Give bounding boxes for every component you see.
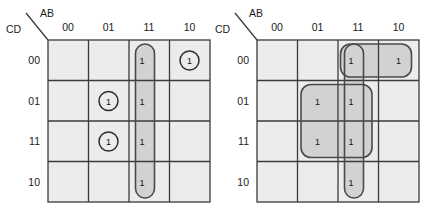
column-header-2: 11 — [353, 21, 364, 33]
column-header-1: 01 — [103, 21, 115, 33]
column-header-2: 11 — [144, 21, 155, 33]
column-header-0: 00 — [271, 21, 283, 33]
row-header-0: 00 — [237, 54, 249, 66]
cell-value-r00-c10: 1 — [187, 56, 192, 66]
row-header-2: 11 — [238, 135, 249, 147]
cell-value-r00-c10: 1 — [396, 56, 401, 66]
kmap-figure: AB CD 00 01 11 10 00 01 11 10 1 1 1 1 1 … — [0, 0, 435, 217]
karnaugh-map-right: AB CD 00 01 11 10 00 01 11 10 1 1 1 1 1 … — [215, 0, 432, 217]
row-header-2: 11 — [29, 135, 40, 147]
cell-value-r11-c11: 1 — [139, 137, 144, 147]
cell-value-r10-c11: 1 — [348, 178, 353, 188]
row-header-1: 01 — [237, 95, 249, 107]
karnaugh-map-left: AB CD 00 01 11 10 00 01 11 10 1 1 1 1 1 … — [0, 0, 217, 217]
corner-label-ab: AB — [249, 7, 263, 19]
cell-value-r11-c01: 1 — [315, 137, 320, 147]
row-header-1: 01 — [28, 95, 40, 107]
corner-label-ab: AB — [40, 7, 54, 19]
corner-label-cd: CD — [6, 23, 22, 35]
cell-value-r01-c11: 1 — [139, 97, 144, 107]
cell-value-r11-c01: 1 — [106, 137, 111, 147]
cell-value-r00-c11: 1 — [139, 56, 144, 66]
row-header-0: 00 — [28, 54, 40, 66]
column-header-3: 10 — [184, 21, 196, 33]
cell-value-r01-c11: 1 — [348, 97, 353, 107]
cell-value-r10-c11: 1 — [139, 178, 144, 188]
row-header-3: 10 — [28, 176, 40, 188]
row-header-3: 10 — [237, 176, 249, 188]
cell-value-r00-c11: 1 — [348, 56, 353, 66]
column-header-0: 00 — [62, 21, 74, 33]
column-header-1: 01 — [312, 21, 324, 33]
cell-value-r11-c11: 1 — [348, 137, 353, 147]
cell-value-r01-c01: 1 — [106, 97, 111, 107]
column-header-3: 10 — [393, 21, 405, 33]
corner-label-cd: CD — [215, 23, 231, 35]
cell-value-r01-c01: 1 — [315, 97, 320, 107]
